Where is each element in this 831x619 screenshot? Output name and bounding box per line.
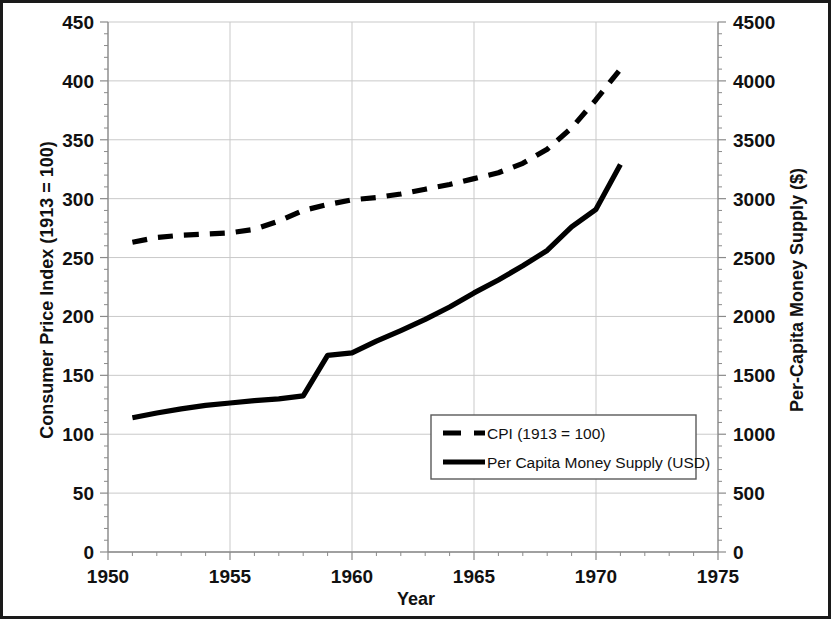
- data-series-layer: [132, 69, 620, 418]
- y-axis-right-tick-label: 0: [733, 542, 744, 563]
- y-axis-left-tick-label: 450: [62, 12, 94, 33]
- y-axis-left-tick-label: 0: [83, 542, 94, 563]
- y-axis-right-tick-label: 2500: [733, 248, 775, 269]
- y-axis-right-tick-label: 3500: [733, 130, 775, 151]
- x-axis-tick-label: 1965: [453, 566, 496, 587]
- x-axis-tick-labels: 195019551960196519701975: [87, 566, 740, 587]
- y-axis-left-tick-label: 50: [73, 483, 94, 504]
- y-axis-left-tick-label: 100: [62, 424, 94, 445]
- y-axis-left-tick-label: 400: [62, 71, 94, 92]
- chart-svg: 050100150200250300350400450 050010001500…: [3, 3, 828, 616]
- x-axis-tick-label: 1955: [209, 566, 252, 587]
- y-axis-left-tick-labels: 050100150200250300350400450: [62, 12, 94, 563]
- y-axis-left-tick-label: 250: [62, 248, 94, 269]
- x-axis-tick-label: 1975: [697, 566, 740, 587]
- y-axis-left-tick-label: 300: [62, 189, 94, 210]
- x-axis-tick-label: 1960: [331, 566, 373, 587]
- series-line-cpi: [132, 69, 620, 242]
- y-axis-right-tick-labels: 050010001500200025003000350040004500: [733, 12, 775, 563]
- y-axis-right-tick-label: 4500: [733, 12, 775, 33]
- x-axis-tick-label: 1950: [87, 566, 129, 587]
- y-axis-right-tick-label: 500: [733, 483, 765, 504]
- y-axis-right-title: Per-Capita Money Supply ($): [787, 168, 807, 412]
- y-axis-right-tick-label: 1000: [733, 424, 775, 445]
- y-axis-left-tick-label: 350: [62, 130, 94, 151]
- chart-legend: CPI (1913 = 100) Per Capita Money Supply…: [431, 415, 710, 479]
- y-axis-left-tick-label: 200: [62, 306, 94, 327]
- x-axis-title: Year: [397, 589, 435, 609]
- chart-figure-frame: 050100150200250300350400450 050010001500…: [0, 0, 831, 619]
- series-line-money-supply: [132, 165, 620, 418]
- y-axis-right-tick-label: 1500: [733, 365, 775, 386]
- y-axis-right-tick-label: 2000: [733, 306, 775, 327]
- y-axis-left-tick-label: 150: [62, 365, 94, 386]
- y-axis-right-tick-label: 4000: [733, 71, 775, 92]
- legend-label-cpi: CPI (1913 = 100): [487, 425, 605, 442]
- y-axis-left-title: Consumer Price Index (1913 = 100): [37, 141, 57, 439]
- legend-label-money-supply: Per Capita Money Supply (USD): [487, 454, 710, 471]
- x-axis-tick-label: 1970: [575, 566, 617, 587]
- y-axis-right-tick-label: 3000: [733, 189, 775, 210]
- chart-canvas: 050100150200250300350400450 050010001500…: [3, 3, 828, 616]
